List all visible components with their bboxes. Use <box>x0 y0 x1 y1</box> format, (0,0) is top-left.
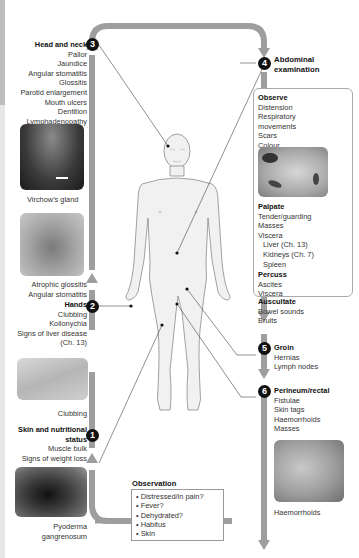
haemorrhoids-caption: Haemorrhoids <box>274 508 320 518</box>
list-item: Masses <box>274 424 329 434</box>
list-item: Masses <box>258 221 314 231</box>
list-item: • Distressed/in pain? <box>136 492 204 501</box>
list-item: Scars <box>258 131 296 141</box>
step-6-badge: 6 <box>258 385 271 398</box>
pyoderma-caption: Pyoderma gangrenosum <box>42 522 87 541</box>
head-and-neck-title: Head and neck <box>20 40 87 50</box>
clubbing-caption: Clubbing <box>58 409 87 419</box>
hands-title: Hands <box>17 300 87 310</box>
list-item: Distension <box>258 103 296 113</box>
percuss-section: Percuss Ascites Viscera <box>258 270 287 299</box>
list-item: Koilonychia <box>17 319 87 329</box>
list-item: Haemorrhoids <box>274 415 329 425</box>
list-item: Mouth ulcers <box>20 98 87 108</box>
caption-line: Angular stomatitis <box>28 290 87 300</box>
palpate-title: Palpate <box>258 202 314 212</box>
list-item: • Skin <box>136 529 204 538</box>
auscultate-section: Auscultate Bowel sounds Bruits <box>258 297 304 326</box>
list-item: Dentition <box>20 107 87 117</box>
list-item: Spleen <box>258 260 314 270</box>
list-item: Muscle bulk <box>18 444 87 454</box>
arrow-pointer-icon <box>56 177 68 179</box>
list-item: • Habitus <box>136 520 204 529</box>
list-item: Lymph nodes <box>274 362 318 372</box>
skin-nutritional-title-2: status <box>18 435 87 445</box>
step-1-badge: 1 <box>86 429 99 442</box>
skin-nutritional-title: Skin and nutritional <box>18 425 87 435</box>
step-4-badge: 4 <box>258 57 271 70</box>
list-item: Ascites <box>258 280 287 290</box>
virchows-gland-caption: Virchow's gland <box>27 195 78 205</box>
human-body-figure <box>126 134 230 410</box>
title-line: Abdominal <box>274 55 320 65</box>
list-item: Clubbing <box>17 310 87 320</box>
list-item: Signs of weight loss <box>18 454 87 464</box>
list-item: Signs of liver disease <box>17 329 87 339</box>
observation-list: • Distressed/in pain? • Fever? • Dehydra… <box>136 492 204 538</box>
head-and-neck-block: Head and neck Pallor Jaundice Angular st… <box>20 40 87 126</box>
list-item: Respiratory <box>258 112 296 122</box>
groin-title: Groin <box>274 343 318 353</box>
palpate-section: Palpate Tender/guarding Masses Viscera L… <box>258 202 314 269</box>
list-item: Pallor <box>20 50 87 60</box>
abdominal-exam-title: Abdominal examination <box>274 55 320 74</box>
list-item: Bowel sounds <box>258 307 304 317</box>
step-3-badge: 3 <box>86 38 99 51</box>
list-item: Skin tags <box>274 405 329 415</box>
caption-line: Atrophic glossitis <box>28 280 87 290</box>
auscultate-title: Auscultate <box>258 297 304 307</box>
skin-nutritional-block: Skin and nutritional status Muscle bulk … <box>18 425 87 463</box>
list-item: Fistulae <box>274 396 329 406</box>
list-item: Hernias <box>274 353 318 363</box>
list-item: • Fever? <box>136 501 204 510</box>
title-line: examination <box>274 65 320 75</box>
list-item: Liver (Ch. 13) <box>258 240 314 250</box>
abdominal-scars-photo <box>258 147 328 197</box>
list-item: Angular stomatitis <box>20 69 87 79</box>
clubbing-photo <box>17 358 88 400</box>
list-item: Glossitis <box>20 78 87 88</box>
step-2-badge: 2 <box>86 300 99 313</box>
list-item: movements <box>258 122 296 132</box>
virchows-gland-photo <box>20 124 84 190</box>
haemorrhoids-photo <box>274 440 344 502</box>
hands-block: Hands Clubbing Koilonychia Signs of live… <box>17 300 87 348</box>
pyoderma-gangrenosum-photo <box>15 467 87 517</box>
list-item: Parotid enlargement <box>20 88 87 98</box>
list-item: Tender/guarding <box>258 212 314 222</box>
list-item: Bruits <box>258 316 304 326</box>
list-item: • Dehydrated? <box>136 511 204 520</box>
observe-section: Observe Distension Respiratory movements… <box>258 93 296 151</box>
perineum-title: Perineum/rectal <box>274 386 329 396</box>
perineum-rectal-block: Perineum/rectal Fistulae Skin tags Haemo… <box>274 386 329 434</box>
percuss-title: Percuss <box>258 270 287 280</box>
caption-line: gangrenosum <box>42 532 87 542</box>
list-item: Kidneys (Ch. 7) <box>258 250 314 260</box>
groin-block: Groin Hernias Lymph nodes <box>274 343 318 372</box>
observe-title: Observe <box>258 93 296 103</box>
list-item: (Ch. 13) <box>17 338 87 348</box>
list-item: Jaundice <box>20 59 87 69</box>
atrophic-glossitis-caption: Atrophic glossitis Angular stomatitis <box>28 280 87 299</box>
caption-line: Pyoderma <box>42 522 87 532</box>
step-5-badge: 5 <box>258 342 271 355</box>
observation-title: Observation <box>132 479 176 488</box>
atrophic-glossitis-photo <box>20 213 84 276</box>
list-item: Viscera <box>258 231 314 241</box>
